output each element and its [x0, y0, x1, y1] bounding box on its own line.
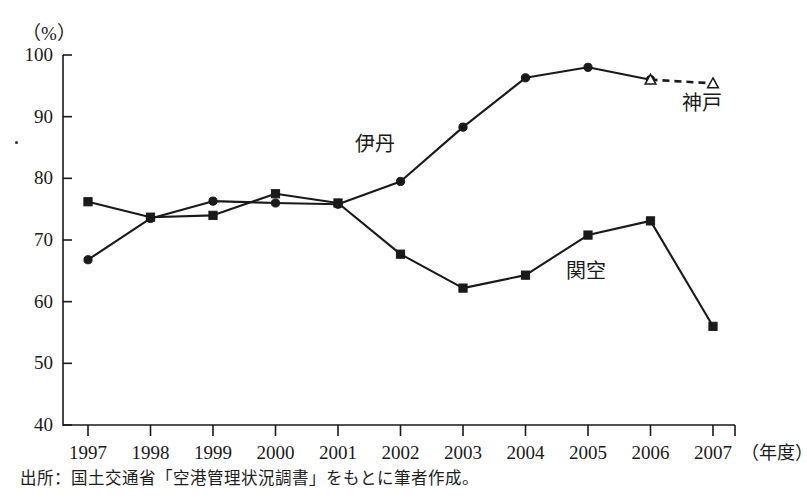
data-point-marker: [84, 198, 92, 206]
y-axis-tick-label: 100: [7, 45, 53, 64]
y-axis-tick-label: 60: [7, 292, 53, 311]
data-point-marker: [708, 78, 719, 88]
data-point-marker: [271, 190, 279, 198]
data-point-marker: [396, 250, 404, 258]
series-line: [651, 80, 714, 84]
data-point-marker: [459, 284, 467, 292]
chart-series: [84, 63, 719, 330]
series-label-itami: 伊丹: [355, 134, 395, 154]
series-label-kansai: 関空: [566, 261, 606, 281]
y-axis-tick-label: 70: [7, 230, 53, 249]
data-point-marker: [521, 271, 529, 279]
axis-spines: [63, 55, 735, 425]
series-伊丹: [84, 63, 655, 264]
data-point-marker: [146, 213, 154, 221]
data-point-marker: [334, 199, 342, 207]
y-axis-tick-label: 50: [7, 353, 53, 372]
y-axis-tick-label: 80: [7, 168, 53, 187]
data-point-marker: [709, 322, 717, 330]
x-axis-tick-label: 2007: [683, 443, 743, 462]
data-point-marker: [84, 256, 92, 264]
x-axis-tick-label: 2003: [433, 443, 493, 462]
series-神戸: [645, 74, 718, 88]
chart-figure: （%） 405060708090100 19971998199920002001…: [0, 0, 807, 501]
data-point-marker: [584, 63, 592, 71]
x-axis-tick-label: 1997: [58, 443, 118, 462]
y-axis-tick-label: 90: [7, 107, 53, 126]
data-point-marker: [396, 177, 404, 185]
x-axis-unit-label: （年度）: [741, 444, 807, 462]
chart-axes: [63, 55, 735, 436]
data-point-marker: [209, 211, 217, 219]
data-point-marker: [521, 74, 529, 82]
x-axis-tick-label: 1999: [183, 443, 243, 462]
line-chart-plot: [0, 0, 807, 501]
data-point-marker: [646, 217, 654, 225]
x-axis-tick-label: 2000: [246, 443, 306, 462]
data-point-marker: [459, 123, 467, 131]
series-line: [88, 67, 651, 259]
y-axis-tick-label: 40: [7, 415, 53, 434]
x-axis-tick-label: 2001: [308, 443, 368, 462]
x-axis-tick-label: 2002: [371, 443, 431, 462]
series-label-kobe: 神戸: [682, 93, 722, 113]
data-point-marker: [271, 199, 279, 207]
source-note: 出所：国土交通省「空港管理状況調書」をもとに筆者作成。: [20, 470, 479, 488]
x-axis-tick-label: 2006: [621, 443, 681, 462]
x-axis-tick-label: 2004: [496, 443, 556, 462]
data-point-marker: [584, 231, 592, 239]
data-point-marker: [209, 197, 217, 205]
x-axis-tick-label: 1998: [121, 443, 181, 462]
series-line: [88, 194, 713, 327]
x-axis-tick-label: 2005: [558, 443, 618, 462]
